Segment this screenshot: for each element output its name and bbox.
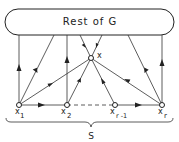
svg-text:x: x xyxy=(61,107,66,116)
edge-g-to-x-left xyxy=(80,35,91,58)
svg-text:r -1: r -1 xyxy=(116,112,127,120)
arrow-toward-x-icon xyxy=(101,78,106,84)
svg-text:r: r xyxy=(164,112,167,120)
node-x2-label: x 2 xyxy=(61,107,71,120)
arrow-right-icon xyxy=(135,103,142,108)
arrow-up-icon xyxy=(65,56,70,63)
rest-of-g-box: Rest of G xyxy=(5,9,174,35)
nodes xyxy=(17,56,165,108)
arrow-toward-x-icon xyxy=(48,83,54,87)
node-x-label: x xyxy=(97,51,102,60)
svg-text:2: 2 xyxy=(67,112,71,120)
node-x xyxy=(89,56,94,61)
set-brace xyxy=(6,118,173,127)
edges xyxy=(19,35,162,105)
rest-of-g-label: Rest of G xyxy=(63,16,118,27)
node-xr-label: x r xyxy=(158,107,167,120)
svg-text:x: x xyxy=(158,107,163,116)
edge-xr-to-x xyxy=(91,58,162,105)
node-xr-1-label: x r -1 xyxy=(110,107,127,120)
arrow-up-icon xyxy=(160,59,165,66)
node-x1-label: x 1 xyxy=(15,107,24,120)
graph-diagram: Rest of G xyxy=(0,0,179,142)
arrow-right-icon xyxy=(38,103,45,108)
svg-text:x: x xyxy=(110,107,115,116)
arrow-up-icon xyxy=(17,64,22,71)
set-label: S xyxy=(88,131,94,141)
arrowheads xyxy=(17,43,165,108)
svg-text:1: 1 xyxy=(20,112,24,120)
